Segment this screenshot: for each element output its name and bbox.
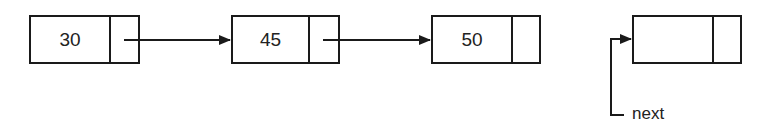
node-data-cell <box>634 17 714 62</box>
node-data-cell: 50 <box>433 17 513 62</box>
node-pointer-cell <box>111 17 138 62</box>
node-pointer-cell <box>310 17 338 62</box>
node-value: 45 <box>260 29 281 51</box>
list-node-new <box>632 15 742 64</box>
list-node-45: 45 <box>231 15 340 64</box>
list-node-50: 50 <box>431 15 541 64</box>
node-value: 30 <box>59 29 80 51</box>
node-data-cell: 30 <box>31 17 111 62</box>
node-pointer-cell <box>714 17 740 62</box>
node-value: 50 <box>461 29 482 51</box>
node-pointer-cell <box>513 17 539 62</box>
list-node-30: 30 <box>29 15 140 64</box>
next-pointer-arrow <box>611 39 631 115</box>
node-data-cell: 45 <box>233 17 310 62</box>
next-pointer-label: next <box>632 104 664 124</box>
